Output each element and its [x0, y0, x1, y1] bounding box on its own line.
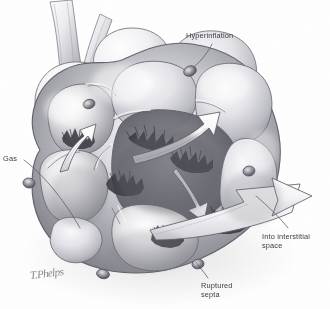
paper-grain — [0, 0, 330, 309]
label-gas: Gas — [3, 154, 17, 163]
medical-illustration-figure: Hyperinflation Gas Into interstitial spa… — [0, 0, 330, 309]
alveoli-illustration-canvas — [0, 0, 330, 309]
label-hyperinflation: Hyperinflation — [186, 31, 233, 40]
label-into-interstitial-space: Into interstitial space — [262, 232, 310, 250]
label-ruptured-septa: Ruptured septa — [201, 281, 233, 299]
